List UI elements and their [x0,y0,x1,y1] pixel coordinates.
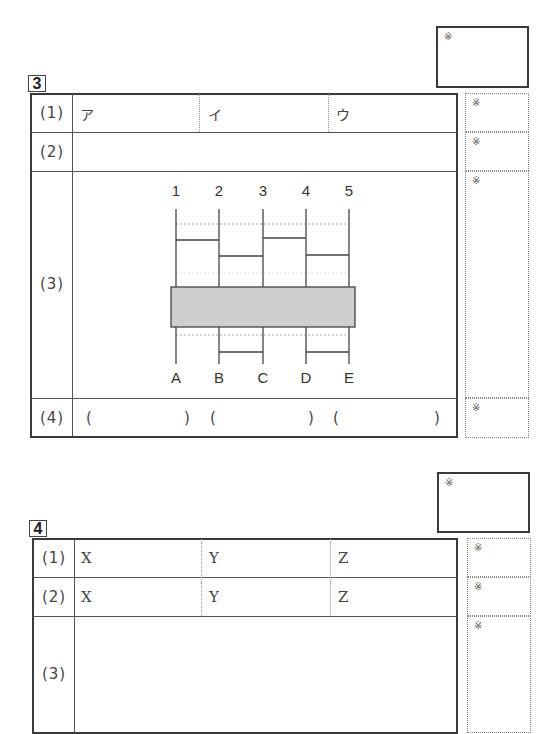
diagram-lines [74,173,456,397]
answer-cell-x[interactable]: X [81,588,196,610]
row-divider [31,132,457,133]
answer-field-4-2[interactable]: ( ) [208,401,320,435]
top-label-4: 4 [298,182,314,199]
cell-divider [199,94,200,132]
bottom-label-b: B [211,369,227,386]
cell-divider [201,539,202,616]
row-label: (2) [31,143,73,161]
row-divider [33,616,457,617]
row-score-box[interactable]: ※ [467,577,531,616]
score-mark: ※ [445,477,453,488]
close-paren: ) [308,409,314,427]
answer-cell-a[interactable]: ア [80,104,195,126]
bottom-label-e: E [341,369,357,386]
row-score-box[interactable]: ※ [465,132,529,171]
bottom-label-c: C [255,369,271,386]
open-paren: ( [86,409,92,427]
row-label: (1) [33,549,75,567]
bottom-label-a: A [168,369,184,386]
amidakuji-diagram[interactable]: 1 2 3 4 5 A B C D E [74,173,456,397]
answer-cell-y[interactable]: Y [209,588,324,610]
row-divider [31,171,457,172]
open-paren: ( [333,409,339,427]
top-label-2: 2 [211,182,227,199]
answer-cell-z[interactable]: Z [338,588,453,610]
close-paren: ) [184,409,190,427]
answer-field-3[interactable] [76,618,456,732]
row-score-box[interactable]: ※ [465,171,529,398]
bottom-label-d: D [298,369,314,386]
cell-divider [328,94,329,132]
section3-number: 3 [28,75,46,92]
answer-cell-z[interactable]: Z [338,549,453,571]
close-paren: ) [434,409,440,427]
open-paren: ( [210,409,216,427]
top-label-5: 5 [341,182,357,199]
row-label: (3) [31,275,73,293]
row-label: (4) [31,409,73,427]
answer-field-4-3[interactable]: ( ) [331,401,451,435]
answer-cell-x[interactable]: X [81,549,196,571]
section4-number: 4 [29,520,47,537]
row-score-box[interactable]: ※ [467,538,531,577]
row-label: (3) [33,665,75,683]
section4-total-score-box[interactable]: ※ [437,472,530,533]
row-divider [31,398,457,399]
row-score-box[interactable]: ※ [465,93,529,132]
answer-field-2[interactable] [74,134,456,170]
row-label: (2) [33,588,75,606]
row-score-box[interactable]: ※ [467,616,531,733]
top-label-1: 1 [168,182,184,199]
row-label: (1) [31,104,73,122]
answer-field-4-1[interactable]: ( ) [84,401,196,435]
cell-divider [330,539,331,616]
top-label-3: 3 [255,182,271,199]
row-divider [33,577,457,578]
answer-cell-y[interactable]: Y [209,549,324,571]
score-mark: ※ [444,31,452,42]
row-score-box[interactable]: ※ [465,398,529,438]
answer-cell-u[interactable]: ウ [336,104,451,126]
answer-cell-i[interactable]: イ [208,104,323,126]
label-column-divider [74,539,75,733]
section3-total-score-box[interactable]: ※ [436,26,529,88]
